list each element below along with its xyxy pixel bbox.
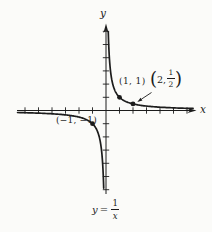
equals-sign: = <box>100 204 108 215</box>
one-half-fraction: 1 2 <box>167 69 175 88</box>
plot-canvas <box>0 0 212 232</box>
equation-lhs: y <box>92 204 98 215</box>
close-paren: ) <box>175 70 182 88</box>
open-paren: ( <box>150 70 157 88</box>
x-axis-label: x <box>200 104 206 115</box>
point-2-half-x-coordinate: 2, <box>157 75 166 85</box>
fraction-numerator: 1 <box>111 199 119 210</box>
point-label-neg1-neg1: (−1, −1) <box>56 116 97 125</box>
point-label-1-1: (1, 1) <box>119 77 146 86</box>
fraction-numerator: 1 <box>167 69 175 79</box>
equation-label: y = 1 x <box>92 199 119 220</box>
fraction-denominator: 2 <box>167 79 175 88</box>
point-label-2-half: ( 2, 1 2 ) <box>150 69 182 88</box>
fraction-denominator: x <box>111 210 119 220</box>
function-graph-figure: y x (1, 1) (−1, −1) ( 2, 1 2 ) y = 1 x <box>0 0 212 232</box>
one-over-x-fraction: 1 x <box>111 199 119 220</box>
y-axis-label: y <box>100 8 106 19</box>
